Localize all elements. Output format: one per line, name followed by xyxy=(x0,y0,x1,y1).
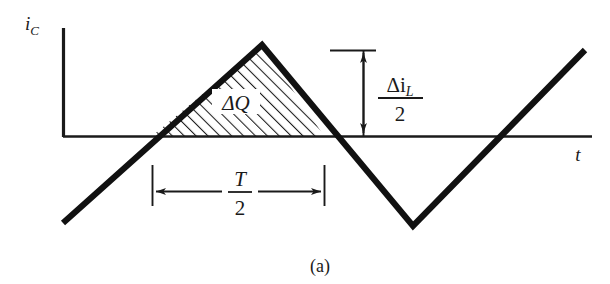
ripple-numerator: ΔiL xyxy=(386,73,413,99)
ripple-denominator: 2 xyxy=(395,102,406,126)
charge-label: ΔQ xyxy=(221,91,250,115)
figure-caption: (a) xyxy=(310,256,330,277)
x-axis-label: t xyxy=(575,144,581,165)
ripple-current-label: ΔiL 2 xyxy=(378,73,423,126)
charge-label-group: ΔQ xyxy=(212,89,260,115)
y-axis-label: iC xyxy=(25,13,39,38)
half-period-label: T 2 xyxy=(228,167,252,220)
y-axis-label-subscript: C xyxy=(30,23,39,38)
ripple-current-dimension xyxy=(330,50,376,136)
capacitor-current-waveform-diagram: ΔiL 2 T 2 ΔQ iC t (a) xyxy=(0,0,610,284)
figure-container: ΔiL 2 T 2 ΔQ iC t (a) xyxy=(0,0,610,284)
delta-symbol: Δi xyxy=(386,73,406,97)
period-numerator: T xyxy=(234,167,247,191)
ripple-subscript: L xyxy=(405,84,414,99)
period-denominator: 2 xyxy=(235,196,246,220)
